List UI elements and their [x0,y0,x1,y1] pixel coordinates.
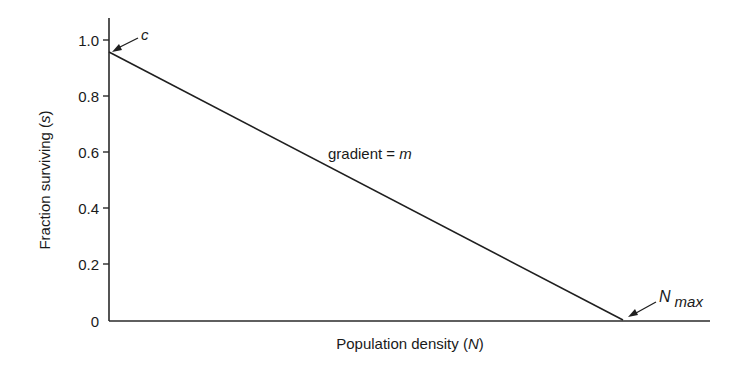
survival-chart: 1.0 0.8 0.6 0.4 0.2 0 Fraction surviving… [0,0,746,373]
arrow-head-icon [628,309,638,317]
annotation-nmax: Nmax [628,288,703,317]
y-tick-label: 0.4 [78,200,99,217]
arrow-line [118,38,138,48]
annotation-gradient: gradient = m [328,145,412,162]
y-tick-label: 0.6 [78,144,99,161]
arrow-head-icon [112,44,122,52]
y-ticks [103,40,109,264]
annotation-label-nmax: Nmax [659,288,703,310]
y-tick-labels: 1.0 0.8 0.6 0.4 0.2 0 [78,32,99,330]
y-tick-label: 0.8 [78,88,99,105]
y-tick-label: 1.0 [78,32,99,49]
x-axis-title: Population density (N) [336,335,484,352]
annotation-label-c: c [141,26,149,43]
annotation-c: c [112,26,149,52]
arrow-line [636,302,656,313]
y-tick-label: 0 [91,313,99,330]
y-tick-label: 0.2 [78,256,99,273]
chart-svg: 1.0 0.8 0.6 0.4 0.2 0 Fraction surviving… [0,0,746,373]
y-axis-title: Fraction surviving (s) [36,110,53,249]
survival-line [109,52,623,320]
